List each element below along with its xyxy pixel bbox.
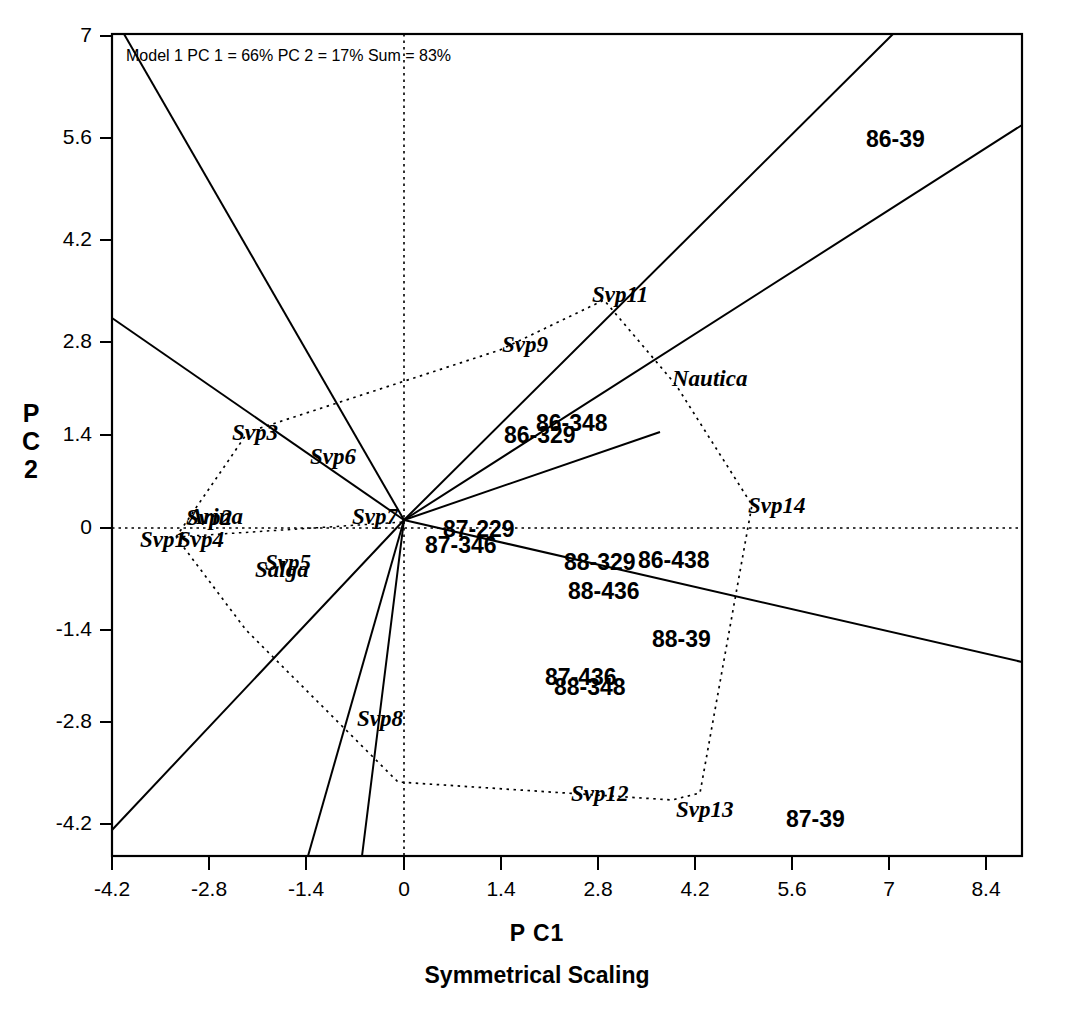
y-tick-label-5.6: 5.6 [18,126,92,147]
species-label-svp12: Svp12 [571,782,629,805]
site-label-86-348: 86-348 [536,412,608,435]
species-ray-left-shallow [112,318,404,520]
chart-subtitle: Symmetrical Scaling [0,964,1074,987]
site-label-88-436: 88-436 [568,580,640,603]
x-tick-label-2.8: 2.8 [558,878,638,899]
species-ray-upper-right-steep [404,34,893,520]
y-tick-label-0: 0 [18,516,92,537]
biplot-svg [0,0,1074,1016]
species-label-svp9: Svp9 [502,333,548,356]
x-tick-label-neg1.4: -1.4 [266,878,346,899]
species-label-svp6: Svp6 [310,445,356,468]
y-axis-title-line-1: P [14,400,48,426]
site-label-87-346: 87-346 [425,534,497,557]
x-tick-label-0: 0 [364,878,444,899]
y-tick-label-neg2.8: -2.8 [18,710,92,731]
species-ray-lower-left-steep2 [362,520,404,856]
species-label-arina: Arina [188,505,243,528]
x-tick-label-4.2: 4.2 [655,878,735,899]
y-tick-label-neg4.2: -4.2 [18,812,92,833]
x-tick-marks [112,856,986,870]
y-tick-label-2.8: 2.8 [18,330,92,351]
species-label-svp14: Svp14 [748,494,806,517]
species-label-svp8: Svp8 [357,707,403,730]
y-axis-title-line-2: C [14,428,48,454]
species-label-svp4: Svp4 [178,528,224,551]
species-label-svp3: Svp3 [232,421,278,444]
site-label-88-39: 88-39 [652,628,711,651]
site-label-88-348: 88-348 [554,676,626,699]
species-label-nautica: Nautica [672,367,747,390]
x-axis-title: P C1 [0,922,1074,945]
species-label-svp11: Svp11 [592,283,648,306]
x-tick-label-neg4.2: -4.2 [72,878,152,899]
species-label-salga: Salga [255,558,309,581]
x-tick-label-7: 7 [849,878,929,899]
species-ray-upper-right-shallow [404,125,1022,520]
site-label-86-39: 86-39 [866,128,925,151]
site-label-87-39: 87-39 [786,808,845,831]
site-label-88-329: 88-329 [564,551,636,574]
y-tick-label-neg1.4: -1.4 [18,618,92,639]
chart-canvas: Model 1 PC 1 = 66% PC 2 = 17% Sum = 83% … [0,0,1074,1016]
site-label-86-438: 86-438 [638,549,710,572]
x-tick-label-neg2.8: -2.8 [169,878,249,899]
species-label-svp13: Svp13 [676,798,734,821]
x-tick-label-5.6: 5.6 [752,878,832,899]
species-ray-upper-left [124,34,404,520]
x-tick-label-1.4: 1.4 [461,878,541,899]
model-annotation: Model 1 PC 1 = 66% PC 2 = 17% Sum = 83% [126,48,451,64]
y-tick-marks [100,36,112,824]
x-tick-label-8.4: 8.4 [946,878,1026,899]
species-label-svp7: Svp7 [352,505,398,528]
y-tick-label-4.2: 4.2 [18,228,92,249]
y-tick-label-7: 7 [18,24,92,45]
y-axis-title-line-3: 2 [14,456,48,482]
